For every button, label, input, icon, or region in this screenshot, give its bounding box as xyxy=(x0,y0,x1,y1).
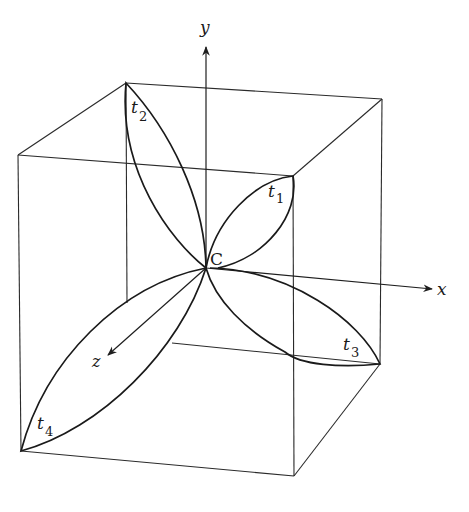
z-axis-label: z xyxy=(91,352,101,371)
label-t3: t 3 xyxy=(343,334,359,360)
cube-edge-top-back xyxy=(126,83,382,99)
labels: y x z C t 1 t 2 t 3 t 4 xyxy=(37,17,447,439)
cube-edge-front-left xyxy=(18,155,21,451)
svg-text:t: t xyxy=(37,413,44,433)
svg-text:3: 3 xyxy=(351,345,359,360)
svg-text:1: 1 xyxy=(276,191,284,206)
svg-text:t: t xyxy=(131,97,138,117)
label-t1: t 1 xyxy=(268,181,284,206)
axes xyxy=(108,47,432,355)
cube-edge-front-right xyxy=(293,176,294,476)
x-axis-label: x xyxy=(437,279,447,299)
cube-edge-top-left xyxy=(18,83,126,155)
svg-text:4: 4 xyxy=(45,424,53,439)
y-axis-label: y xyxy=(199,17,210,37)
label-t2: t 2 xyxy=(131,97,147,124)
cube-edge-back-right xyxy=(380,99,382,364)
diagram-canvas: y x z C t 1 t 2 t 3 t 4 xyxy=(0,0,469,512)
cube-diagram: y x z C t 1 t 2 t 3 t 4 xyxy=(0,0,469,512)
cube-edge-top-right xyxy=(293,99,382,176)
svg-text:t: t xyxy=(268,181,275,201)
cube-edge-bottom-front xyxy=(21,451,294,476)
label-t4: t 4 xyxy=(37,413,53,439)
z-axis-arrow xyxy=(108,268,206,355)
lobes xyxy=(21,83,380,451)
cube-edge-top-front xyxy=(18,155,293,176)
cube-edge-bottom-right xyxy=(294,364,380,476)
svg-text:t: t xyxy=(343,334,350,354)
svg-text:2: 2 xyxy=(139,109,147,124)
center-label: C xyxy=(210,249,223,269)
